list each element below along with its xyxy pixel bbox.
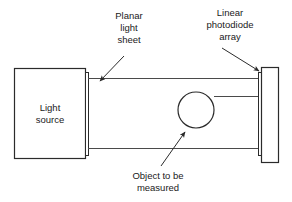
planar-light-sheet-leader-arrow: [100, 56, 124, 81]
object-assembly: [178, 92, 214, 128]
photodiode-array-label-line2: photodiode: [206, 19, 253, 30]
callout-object-to-be-measured: Object to be measured: [132, 132, 185, 193]
callout-planar-light-sheet: Planar light sheet: [100, 10, 143, 81]
object-circle: [178, 92, 214, 128]
object-label-line1: Object to be: [132, 170, 183, 181]
planar-light-sheet-label-line2: light: [120, 22, 138, 33]
planar-light-sheet-beam: [88, 79, 261, 149]
diagram-canvas: Light source Planar light sheet Linear: [0, 0, 292, 202]
optical-measurement-diagram: Light source Planar light sheet Linear: [0, 0, 292, 202]
photodiode-array-assembly: [259, 68, 279, 163]
photodiode-array-box: [262, 68, 279, 163]
object-label-line2: measured: [137, 182, 179, 193]
planar-light-sheet-label-line3: sheet: [117, 34, 141, 45]
photodiode-array-leader-arrow: [222, 48, 259, 71]
light-source-label-line1: Light: [40, 102, 61, 113]
light-source-label-line2: source: [36, 114, 65, 125]
photodiode-array-label-line3: array: [219, 31, 241, 42]
light-source-assembly: Light source: [15, 69, 89, 159]
callout-linear-photodiode-array: Linear photodiode array: [206, 7, 259, 71]
light-source-flange: [86, 73, 89, 156]
planar-light-sheet-label-line1: Planar: [115, 10, 142, 21]
photodiode-array-label-line1: Linear: [217, 7, 243, 18]
